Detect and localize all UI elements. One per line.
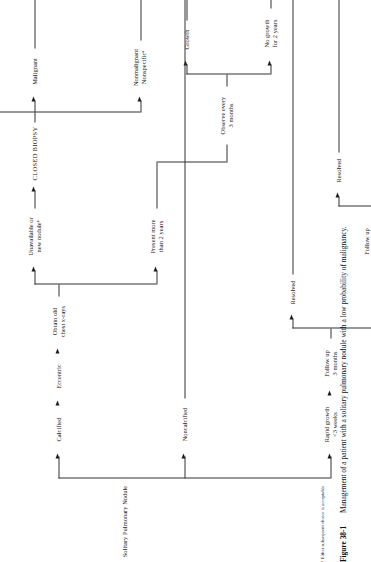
figure-footnote: ᵃ Either subsequent choice is acceptable xyxy=(320,442,326,562)
connector-to-resolved-1 xyxy=(292,318,293,328)
connector-observe-out xyxy=(226,74,227,86)
arrow-eccentric-to-xrays xyxy=(55,348,59,353)
node-no-growth-2-years: No growth for 2 years xyxy=(262,8,277,58)
arrow-calcified-to-eccentric xyxy=(55,400,59,405)
connector-malignant-out xyxy=(34,0,35,48)
connector-growth-to-resection xyxy=(186,0,187,20)
node-growth: Growth xyxy=(182,20,190,58)
arrow-to-noncalcified xyxy=(181,453,185,458)
node-solitary-pulmonary-nodule: Solitary Pulmonary Nodule xyxy=(120,482,128,560)
connector-to-unavailable xyxy=(34,270,35,284)
figure-number: Figure 38-1 xyxy=(339,526,348,562)
connector-resolved2-rail xyxy=(338,0,339,152)
arrow-to-nonmalignant-nonspecific xyxy=(137,96,141,101)
node-unavailable-or-new-nodule: Unavailable or new noduleᵃ xyxy=(26,208,41,264)
node-obtain-old-xrays: Obtain old chest x-rays xyxy=(50,296,65,346)
node-malignant: Malignant xyxy=(30,48,38,94)
connector-to-malignant xyxy=(34,100,35,112)
connector-resolved1-rail xyxy=(292,0,293,274)
arrow-to-present-2y xyxy=(153,266,157,271)
connector-observe-riser xyxy=(156,161,226,162)
arrow-to-resolved-1 xyxy=(289,314,293,319)
arrow-to-unavailable xyxy=(31,266,35,271)
figure-caption-text: Management of a patient with a solitary … xyxy=(339,226,348,513)
arrow-to-closed-biopsy xyxy=(31,186,35,191)
connector-to-calcified xyxy=(58,456,59,478)
arrow-rapidgrowth-to-followup3 xyxy=(327,390,331,395)
connector-biopsy-out xyxy=(34,112,35,122)
node-calcified: Calcified xyxy=(54,408,62,450)
figure-caption: Figure 38-1 Management of a patient with… xyxy=(340,0,362,562)
connector-start-spine xyxy=(58,477,330,478)
connector-to-noncalcified xyxy=(184,456,185,478)
connector-nonspecific-out xyxy=(140,0,141,40)
connector-to-growth xyxy=(186,64,187,74)
node-resolved-1: Resolved xyxy=(288,272,296,312)
connector-present2y-out xyxy=(156,162,157,208)
connector-to-rapid-growth xyxy=(330,456,331,478)
connector-xrays-split xyxy=(34,283,156,284)
node-eccentric: Eccentric xyxy=(54,355,62,397)
connector-to-observe xyxy=(226,144,227,162)
connector-followup3-out xyxy=(330,328,331,338)
connector-to-resolved-2 xyxy=(338,196,339,206)
arrow-to-malignant xyxy=(31,96,35,101)
node-nonmalignant-nonspecific: Nonmalignant Nonspecificᵃ xyxy=(131,40,146,94)
flowchart-canvas: Solitary Pulmonary Nodule Calcified Nonc… xyxy=(0,0,371,562)
node-observe-every-3-months: Observe every 3 months xyxy=(218,86,233,144)
arrow-to-calcified xyxy=(55,453,59,458)
connector-to-nonmalignant-nonspecific xyxy=(140,100,141,112)
connector-unavailable-to-biopsy xyxy=(34,190,35,208)
node-closed-biopsy: CLOSED BIOPSY xyxy=(30,122,38,184)
connector-to-present-2y xyxy=(156,270,157,284)
node-follow-up-6-months-1-year: Follow up 6 months and 1 year xyxy=(362,216,371,266)
connector-xrays-out xyxy=(58,284,59,296)
node-follow-up-3-months: Follow up 3 months xyxy=(322,338,337,388)
node-present-more-than-2-years: Present more than 2 years xyxy=(148,208,163,264)
node-noncalcified: Noncalcified xyxy=(180,398,188,450)
connector-observe-split xyxy=(186,73,270,74)
connector-noncalcified-rail xyxy=(184,0,185,398)
connector-nogrowth-to-nofurther xyxy=(270,0,271,8)
arrow-to-no-growth xyxy=(267,60,271,65)
connector-biopsy-split xyxy=(0,111,140,112)
arrow-to-resolved-2 xyxy=(335,192,339,197)
arrow-to-rapid-growth xyxy=(327,453,331,458)
connector-to-no-growth xyxy=(270,64,271,74)
